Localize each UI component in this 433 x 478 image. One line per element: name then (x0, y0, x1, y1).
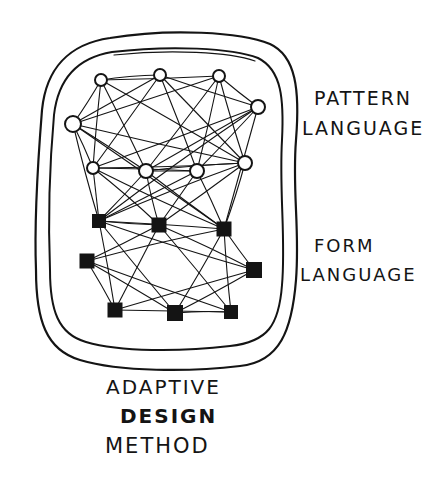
edge (73, 124, 245, 163)
adaptive-label: ADAPTIVE (106, 377, 221, 397)
form-node-square (246, 262, 262, 278)
form-node-square (224, 305, 238, 319)
form-language-label: LANGUAGE (300, 266, 417, 284)
edge (115, 225, 159, 310)
edge (93, 168, 99, 221)
pattern-node-circle (154, 69, 166, 81)
edge (87, 225, 159, 261)
edge (224, 229, 231, 312)
edge (99, 221, 115, 310)
form-node-square (152, 218, 167, 233)
pattern-node-circle (95, 74, 107, 86)
pattern-language-label: LANGUAGE (302, 119, 424, 138)
network-edges (73, 75, 258, 313)
edge (93, 107, 258, 168)
edge (93, 75, 160, 168)
form-node-square (108, 303, 123, 318)
form-node-square (217, 222, 232, 237)
pattern-language-nodes (65, 69, 265, 178)
pattern-node-circle (139, 164, 153, 178)
pattern-node-circle (213, 70, 225, 82)
pattern-node-circle (238, 156, 252, 170)
pattern-node-circle (87, 162, 99, 174)
pattern-node-circle (65, 116, 81, 132)
pattern-label: PATTERN (314, 89, 412, 108)
edge (159, 225, 231, 312)
method-label: METHOD (105, 436, 210, 457)
pattern-node-circle (190, 164, 204, 178)
design-label: DESIGN (120, 406, 217, 426)
form-node-square (167, 305, 183, 321)
form-label: FORM (314, 237, 375, 255)
edge (93, 80, 101, 168)
enclosure-outer (35, 32, 297, 370)
edge (159, 171, 197, 225)
form-node-square (80, 254, 95, 269)
edge (159, 225, 254, 270)
form-node-square (92, 214, 106, 228)
pattern-node-circle (251, 100, 265, 114)
